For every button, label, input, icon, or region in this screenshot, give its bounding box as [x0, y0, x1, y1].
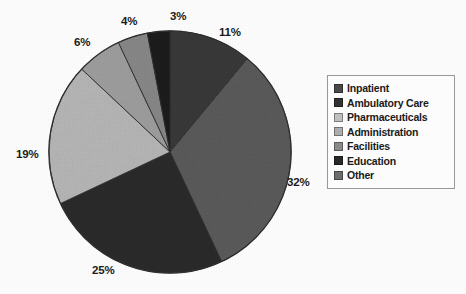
- legend-swatch-icon: [334, 84, 343, 93]
- legend-item-label: Administration: [347, 126, 418, 138]
- pie-percent-label: 4%: [121, 15, 137, 27]
- pie-percent-label: 11%: [219, 26, 241, 38]
- legend-item-label: Pharmaceuticals: [347, 111, 427, 123]
- legend-item[interactable]: Other: [334, 168, 448, 182]
- legend-swatch-icon: [334, 171, 343, 180]
- pie-chart-svg: [48, 30, 292, 274]
- pie-percent-label: 6%: [74, 36, 90, 48]
- pie-chart: [48, 30, 292, 274]
- legend-item-label: Facilities: [347, 140, 390, 152]
- legend-item[interactable]: Facilities: [334, 139, 448, 153]
- pie-percent-label: 19%: [16, 148, 38, 160]
- pie-percent-label: 25%: [92, 264, 114, 276]
- legend-item[interactable]: Administration: [334, 125, 448, 139]
- legend-swatch-icon: [334, 98, 343, 107]
- legend-item-label: Other: [347, 169, 374, 181]
- pie-slice-group: [49, 31, 291, 273]
- legend-swatch-icon: [334, 127, 343, 136]
- legend-item[interactable]: Education: [334, 154, 448, 168]
- legend-swatch-icon: [334, 113, 343, 122]
- legend-item-label: Ambulatory Care: [347, 97, 429, 109]
- legend-item[interactable]: Pharmaceuticals: [334, 110, 448, 124]
- pie-percent-label: 3%: [170, 10, 186, 22]
- legend-swatch-icon: [334, 142, 343, 151]
- chart-legend: InpatientAmbulatory CarePharmaceuticalsA…: [327, 75, 455, 189]
- pie-percent-label: 32%: [287, 176, 309, 188]
- legend-item[interactable]: Ambulatory Care: [334, 96, 448, 110]
- legend-item[interactable]: Inpatient: [334, 81, 448, 95]
- legend-item-label: Education: [347, 155, 396, 167]
- legend-item-label: Inpatient: [347, 82, 389, 94]
- legend-swatch-icon: [334, 156, 343, 165]
- pie-chart-figure: 11%32%25%19%6%4%3% InpatientAmbulatory C…: [0, 0, 466, 294]
